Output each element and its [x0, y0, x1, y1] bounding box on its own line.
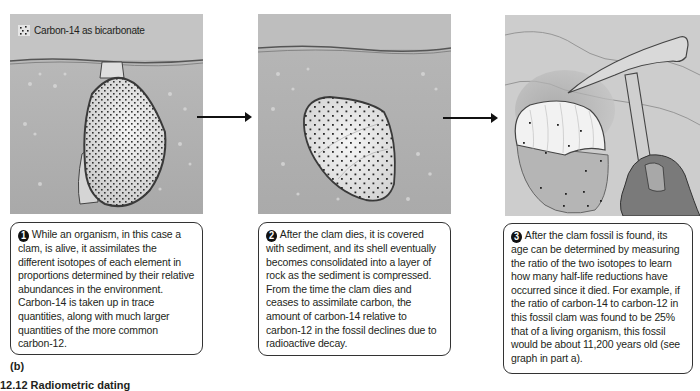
step-3-description: 3After the clam fossil is found, its age… — [503, 223, 693, 374]
fossil-and-hammer-illustration — [505, 15, 700, 216]
dot-pattern-icon — [18, 25, 30, 36]
step-2-description: 2After the clam dies, it is covered with… — [258, 222, 451, 356]
panel-buried-shell — [258, 14, 451, 214]
step-3-text: 3After the clam fossil is found, its age… — [511, 229, 685, 365]
arrow-icon — [443, 117, 496, 119]
step-3-body: After the clam fossil is found, its age … — [511, 229, 680, 364]
panel-living-clam: Carbon-14 as bicarbonate — [10, 14, 203, 214]
buried-shell-illustration — [258, 14, 451, 214]
step-1-text: 1While an organism, in this case a clam,… — [18, 228, 195, 351]
step-1-body: While an organism, in this case a clam, … — [18, 228, 194, 349]
figure-caption: 12.12 Radiometric dating — [0, 379, 130, 391]
step-number-badge: 2 — [266, 230, 277, 242]
legend-label: Carbon-14 as bicarbonate — [34, 24, 145, 36]
legend: Carbon-14 as bicarbonate — [18, 24, 160, 36]
step-2-body: After the clam dies, it is covered with … — [266, 228, 437, 349]
step-number-badge: 3 — [511, 231, 522, 243]
panel-fossil-found — [505, 15, 700, 216]
arrow-icon — [197, 116, 250, 118]
step-2-text: 2After the clam dies, it is covered with… — [266, 228, 443, 351]
step-number-badge: 1 — [18, 230, 29, 242]
living-clam-illustration — [10, 14, 203, 214]
part-label: (b) — [10, 360, 24, 372]
step-1-description: 1While an organism, in this case a clam,… — [10, 222, 203, 355]
